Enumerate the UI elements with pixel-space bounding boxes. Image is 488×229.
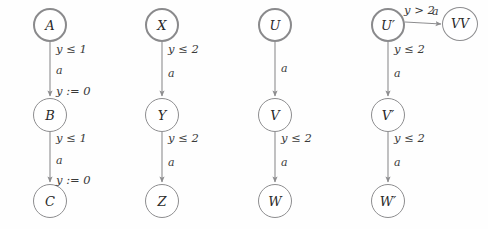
state-node-a[interactable]: A	[33, 8, 67, 42]
timed-automata-figure: A B C X Y Z U V W U′ V′ W′ VV y ≤ 1 a y …	[0, 0, 488, 229]
edge-layer	[0, 0, 488, 229]
edge-label-v-w-action: a	[281, 157, 288, 168]
edge-label-u-prime-v-prime-guard: y ≤ 2	[394, 44, 425, 56]
edge-label-u-prime-vv-action: a	[432, 6, 439, 17]
edge-label-y-z-guard: y ≤ 2	[168, 133, 199, 145]
edge-label-u-prime-v-prime-action: a	[394, 68, 401, 79]
state-label-y: Y	[158, 109, 167, 122]
state-label-w-prime: W′	[380, 195, 396, 208]
state-node-v-prime[interactable]: V′	[371, 98, 405, 132]
state-node-vv[interactable]: VV	[442, 7, 478, 41]
edge-label-u-v-action: a	[281, 63, 288, 74]
state-label-u-prime: U′	[381, 19, 395, 32]
edge-label-u-prime-vv-guard: y > 2	[404, 5, 435, 17]
edge-label-a-b-guard: y ≤ 1	[56, 44, 87, 56]
state-label-a: A	[45, 19, 54, 32]
edge-uprime-vv	[405, 22, 441, 24]
state-node-b[interactable]: B	[33, 98, 67, 132]
edge-label-v-w-guard: y ≤ 2	[281, 133, 312, 145]
edge-label-v-prime-w-prime-action: a	[394, 157, 401, 168]
edge-label-b-c-reset: y := 0	[56, 175, 91, 187]
state-node-y[interactable]: Y	[145, 98, 179, 132]
state-node-x[interactable]: X	[145, 8, 179, 42]
state-label-u: U	[270, 19, 281, 32]
state-label-vv: VV	[451, 18, 469, 31]
edge-label-x-y-guard: y ≤ 2	[168, 44, 199, 56]
edge-label-a-b-reset: y := 0	[56, 86, 91, 98]
state-label-v-prime: V′	[382, 109, 394, 122]
state-label-c: C	[45, 195, 55, 208]
edge-label-b-c-guard: y ≤ 1	[56, 133, 87, 145]
edge-label-a-b-action: a	[56, 65, 63, 76]
state-node-u-prime[interactable]: U′	[371, 8, 405, 42]
state-node-w[interactable]: W	[258, 184, 292, 218]
state-label-v: V	[270, 109, 279, 122]
edge-label-x-y-action: a	[168, 68, 175, 79]
state-label-b: B	[45, 109, 55, 122]
state-label-x: X	[157, 19, 166, 32]
state-node-w-prime[interactable]: W′	[371, 184, 405, 218]
state-node-c[interactable]: C	[33, 184, 67, 218]
state-node-u[interactable]: U	[258, 8, 292, 42]
state-node-v[interactable]: V	[258, 98, 292, 132]
state-label-z: Z	[157, 195, 166, 208]
state-label-w: W	[268, 195, 281, 208]
edge-label-y-z-action: a	[168, 157, 175, 168]
edge-label-v-prime-w-prime-guard: y ≤ 2	[394, 133, 425, 145]
edge-label-b-c-action: a	[56, 155, 63, 166]
state-node-z[interactable]: Z	[145, 184, 179, 218]
